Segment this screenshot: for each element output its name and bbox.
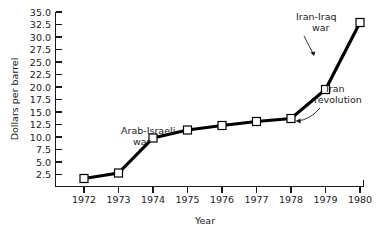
data-point-1972 bbox=[80, 175, 88, 183]
data-point-1978 bbox=[287, 115, 295, 123]
x-tick-label: 1980 bbox=[348, 194, 372, 205]
x-axis-line bbox=[56, 180, 364, 187]
y-tick-label: 2.5 bbox=[36, 169, 51, 180]
x-tick-label: 1977 bbox=[244, 194, 268, 205]
y-tick-label: 22.5 bbox=[30, 69, 51, 80]
y-tick-label: 10.0 bbox=[30, 132, 51, 143]
chart-canvas: 2.5 5.0 7.5 10.0 12.5 15.0 17.5 20.0 22.… bbox=[0, 0, 382, 233]
x-tick-label: 1978 bbox=[279, 194, 303, 205]
x-axis-ticks bbox=[84, 187, 360, 193]
y-tick-label: 25.0 bbox=[30, 57, 51, 68]
annotation-line-2: revolution bbox=[314, 94, 362, 105]
y-axis-title: Dollars per barrel bbox=[9, 58, 20, 141]
y-axis-tick-labels: 2.5 5.0 7.5 10.0 12.5 15.0 17.5 20.0 22.… bbox=[30, 7, 51, 181]
x-tick-label: 1975 bbox=[175, 194, 199, 205]
y-tick-label: 35.0 bbox=[30, 7, 51, 18]
annotation-line-2: war bbox=[312, 22, 330, 33]
x-tick-label: 1974 bbox=[141, 194, 165, 205]
data-point-1976 bbox=[218, 122, 226, 130]
y-tick-label: 32.5 bbox=[30, 19, 51, 30]
annotation-line-2: war bbox=[133, 136, 151, 147]
y-tick-label: 20.0 bbox=[30, 82, 51, 93]
data-point-1973 bbox=[115, 169, 123, 177]
y-tick-label: 17.5 bbox=[30, 94, 51, 105]
y-tick-label: 7.5 bbox=[36, 144, 51, 155]
data-point-1980 bbox=[356, 19, 364, 27]
annotation-iran-revolution: Iran revolution bbox=[296, 83, 362, 124]
y-axis-ticks bbox=[56, 12, 62, 175]
data-point-1975 bbox=[184, 126, 192, 134]
x-tick-label: 1976 bbox=[210, 194, 234, 205]
data-point-1977 bbox=[253, 118, 261, 126]
y-tick-label: 27.5 bbox=[30, 44, 51, 55]
annotation-iran-iraq-war: Iran-Iraq war bbox=[296, 11, 337, 56]
x-axis-title: Year bbox=[194, 215, 215, 226]
annotation-arrowhead-icon bbox=[296, 118, 301, 123]
x-tick-label: 1979 bbox=[313, 194, 337, 205]
y-tick-label: 5.0 bbox=[36, 157, 51, 168]
annotation-line-1: Iran bbox=[326, 83, 345, 94]
y-tick-label: 30.0 bbox=[30, 32, 51, 43]
x-tick-label: 1972 bbox=[72, 194, 96, 205]
annotation-arrowhead-icon bbox=[310, 51, 315, 56]
y-tick-label: 15.0 bbox=[30, 107, 51, 118]
annotation-line-1: Iran-Iraq bbox=[296, 11, 337, 22]
annotation-line-1: Arab-Israeli bbox=[121, 125, 175, 136]
x-axis-tick-labels: 1972 1973 1974 1975 1976 1977 1978 1979 … bbox=[72, 194, 372, 205]
x-tick-label: 1973 bbox=[106, 194, 130, 205]
oil-price-chart: 2.5 5.0 7.5 10.0 12.5 15.0 17.5 20.0 22.… bbox=[0, 0, 382, 233]
y-tick-label: 12.5 bbox=[30, 119, 51, 130]
